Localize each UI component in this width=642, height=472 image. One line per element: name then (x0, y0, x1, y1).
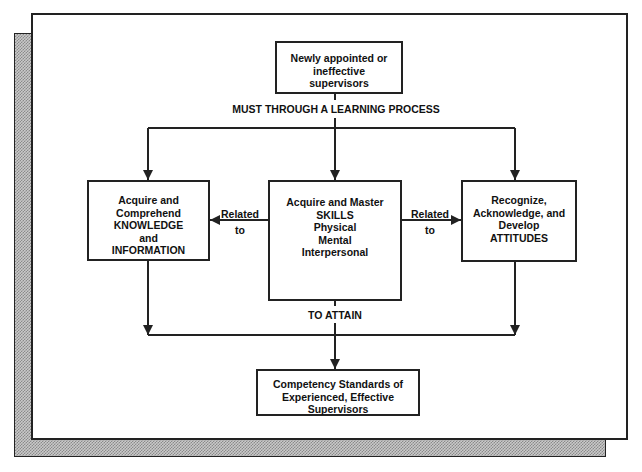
node-text: Recognize, (491, 194, 546, 207)
node-text: Acquire and (118, 194, 179, 207)
edge-label-related-left: Related to (218, 208, 262, 236)
node-skills: Acquire and Master SKILLS Physical Menta… (268, 180, 402, 301)
edge-label-attain: TO ATTAIN (300, 309, 370, 322)
edge-label-process: MUST THROUGH A LEARNING PROCESS (225, 103, 447, 116)
node-text: Interpersonal (302, 246, 369, 259)
node-goal: Competency Standards of Experienced, Eff… (256, 369, 420, 416)
edge-label-related-right: Related to (408, 208, 452, 236)
node-text: Newly appointed or (291, 52, 388, 65)
node-start: Newly appointed or ineffective superviso… (275, 41, 403, 94)
node-text: Competency Standards of (273, 378, 403, 391)
node-knowledge: Acquire and Comprehend KNOWLEDGE and INF… (87, 180, 210, 261)
node-text: INFORMATION (112, 244, 185, 257)
node-text: Develop (499, 219, 540, 232)
node-text: Acknowledge, and (473, 207, 565, 220)
label-text: to (218, 224, 262, 237)
node-text: Supervisors (308, 403, 369, 416)
node-text: Experienced, Effective (282, 391, 394, 404)
node-text: Comprehend (116, 207, 181, 220)
label-text: Related (408, 208, 452, 221)
label-text: Related (218, 208, 262, 221)
node-text: Physical (314, 221, 357, 234)
node-text: supervisors (309, 77, 369, 90)
node-text: Mental (318, 234, 351, 247)
node-text: ineffective (313, 65, 365, 78)
node-text: ATTITUDES (490, 232, 548, 245)
label-text: to (408, 224, 452, 237)
node-text: KNOWLEDGE (114, 219, 183, 232)
node-text: SKILLS (316, 209, 353, 222)
node-text: Acquire and Master (286, 196, 383, 209)
node-text: and (139, 232, 158, 245)
node-attitudes: Recognize, Acknowledge, and Develop ATTI… (461, 180, 577, 262)
